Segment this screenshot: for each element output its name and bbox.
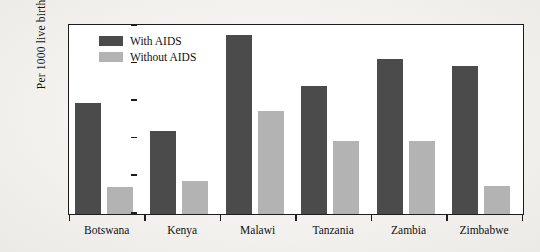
y-axis-tick-mark bbox=[131, 212, 137, 214]
bar-with-aids[interactable] bbox=[150, 131, 176, 214]
bar-group bbox=[295, 25, 370, 214]
x-axis-label-zimbabwe: Zimbabwe bbox=[446, 224, 521, 236]
legend-swatch-with-aids bbox=[99, 36, 123, 46]
bar-with-aids[interactable] bbox=[377, 59, 403, 214]
legend-swatch-without-aids bbox=[99, 52, 123, 62]
chart-page: Per 1000 live births With AIDS Without A… bbox=[0, 0, 540, 252]
bar-group bbox=[446, 25, 521, 214]
y-axis-tick-mark bbox=[131, 174, 137, 176]
x-axis-label-tanzania: Tanzania bbox=[295, 224, 370, 236]
bar-with-aids[interactable] bbox=[75, 103, 101, 214]
bar-with-aids[interactable] bbox=[452, 66, 478, 214]
bar-without-aids[interactable] bbox=[333, 141, 359, 214]
x-axis-tick-mark bbox=[69, 214, 70, 221]
x-axis-tick-mark bbox=[295, 214, 296, 221]
y-axis-tick-mark bbox=[131, 99, 137, 101]
legend-item-with-aids: With AIDS bbox=[99, 33, 196, 48]
y-axis-tick-mark bbox=[131, 62, 137, 64]
y-axis-tick-mark bbox=[131, 137, 137, 139]
bar-with-aids[interactable] bbox=[301, 86, 327, 214]
chart-legend: With AIDS Without AIDS bbox=[99, 33, 196, 65]
x-axis-label-zambia: Zambia bbox=[371, 224, 446, 236]
x-axis-label-malawi: Malawi bbox=[220, 224, 295, 236]
x-axis-label-kenya: Kenya bbox=[144, 224, 219, 236]
legend-label-with-aids: With AIDS bbox=[130, 35, 182, 47]
legend-item-without-aids: Without AIDS bbox=[99, 49, 196, 64]
plot-area: With AIDS Without AIDS 050100150200250Bo… bbox=[68, 24, 524, 215]
x-axis-tick-mark bbox=[371, 214, 372, 221]
bar-without-aids[interactable] bbox=[182, 181, 208, 214]
bar-group bbox=[220, 25, 295, 214]
bar-without-aids[interactable] bbox=[484, 186, 510, 214]
bar-without-aids[interactable] bbox=[409, 141, 435, 214]
x-axis-tick-mark bbox=[522, 214, 523, 221]
bar-without-aids[interactable] bbox=[107, 187, 133, 214]
x-axis-tick-mark bbox=[144, 214, 145, 221]
x-axis-tick-mark bbox=[220, 214, 221, 221]
legend-label-without-aids: Without AIDS bbox=[130, 51, 196, 63]
x-axis-label-botswana: Botswana bbox=[69, 224, 144, 236]
y-axis-title: Per 1000 live births bbox=[35, 0, 47, 117]
bar-without-aids[interactable] bbox=[258, 111, 284, 214]
y-axis-tick-mark bbox=[131, 24, 137, 26]
x-axis-tick-mark bbox=[446, 214, 447, 221]
bar-group bbox=[371, 25, 446, 214]
bar-with-aids[interactable] bbox=[226, 35, 252, 214]
